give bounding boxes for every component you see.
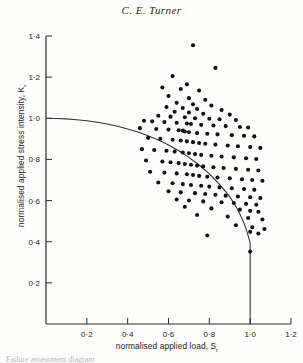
- x-axis-title-subscript: r: [216, 346, 218, 353]
- data-point: [252, 134, 256, 138]
- page-footer-fragment: Failure assessment diagram: [6, 355, 296, 363]
- data-point: [156, 114, 160, 118]
- data-point: [142, 119, 146, 123]
- x-tick-label-2: 0·6: [163, 330, 175, 339]
- data-point: [164, 149, 168, 153]
- data-point: [262, 227, 266, 231]
- x-axis-title: normalised applied load, Sr: [42, 341, 292, 353]
- data-point: [201, 112, 205, 116]
- data-point: [189, 163, 193, 167]
- data-point: [175, 101, 179, 105]
- data-point: [193, 191, 197, 195]
- data-point: [209, 103, 213, 107]
- data-point: [150, 119, 154, 123]
- data-point: [160, 85, 164, 89]
- data-point: [187, 96, 191, 100]
- data-point: [168, 160, 172, 164]
- data-point: [148, 170, 152, 174]
- data-point: [189, 122, 193, 126]
- data-point: [238, 208, 242, 212]
- data-point: [232, 201, 236, 205]
- y-tick-label-3: 0·8: [28, 155, 40, 164]
- data-point: [248, 230, 252, 234]
- data-point: [185, 139, 189, 143]
- data-point: [236, 144, 240, 148]
- data-point: [201, 164, 205, 168]
- data-point: [226, 143, 230, 147]
- data-point: [195, 107, 199, 111]
- data-point: [207, 185, 211, 189]
- data-point: [191, 43, 195, 47]
- data-point: [177, 161, 181, 165]
- data-point: [238, 125, 242, 129]
- data-point: [181, 150, 185, 154]
- data-point: [171, 74, 175, 78]
- data-point: [193, 116, 197, 120]
- data-point: [191, 173, 195, 177]
- data-point: [138, 126, 142, 130]
- data-point: [248, 250, 252, 254]
- data-point: [185, 121, 189, 125]
- data-point: [260, 217, 264, 221]
- data-point: [183, 129, 187, 133]
- data-point: [197, 88, 201, 92]
- data-point: [179, 138, 183, 142]
- y-tick-label-5: 1·2: [28, 73, 40, 82]
- data-point: [220, 155, 224, 159]
- data-point: [246, 216, 250, 220]
- data-point: [217, 185, 221, 189]
- data-point: [179, 190, 183, 194]
- data-point: [203, 142, 207, 146]
- data-point: [187, 199, 191, 203]
- data-point: [191, 140, 195, 144]
- data-point: [256, 231, 260, 235]
- data-point: [195, 164, 199, 168]
- data-point: [213, 143, 217, 147]
- data-point: [256, 210, 260, 214]
- journal-figure-page: C. E. Turner 0·20·40·60·81·01·21·40·20·4…: [0, 0, 303, 363]
- data-point: [199, 153, 203, 157]
- data-point: [240, 177, 244, 181]
- data-point: [183, 205, 187, 209]
- y-tick-label-4: 1·0: [28, 114, 40, 123]
- data-point: [232, 155, 236, 159]
- data-point: [258, 146, 262, 150]
- data-point: [217, 117, 221, 121]
- data-point: [195, 131, 199, 135]
- data-point: [199, 184, 203, 188]
- data-point: [175, 121, 179, 125]
- x-tick-label-1: 0·4: [122, 330, 134, 339]
- data-point: [189, 183, 193, 187]
- data-point: [242, 187, 246, 191]
- data-point: [209, 154, 213, 158]
- data-point: [224, 124, 228, 128]
- data-point: [205, 233, 209, 237]
- data-point: [209, 206, 213, 210]
- data-point: [252, 188, 256, 192]
- data-point: [246, 168, 250, 172]
- data-point: [244, 156, 248, 160]
- data-point: [254, 157, 258, 161]
- data-point: [197, 174, 201, 178]
- data-point: [230, 133, 234, 137]
- data-point: [226, 215, 230, 219]
- data-point: [260, 179, 264, 183]
- y-tick-label-0: 0·2: [28, 279, 40, 288]
- data-point: [173, 110, 177, 114]
- scatter-series: [138, 43, 267, 253]
- data-point: [168, 115, 172, 119]
- data-point: [175, 171, 179, 175]
- x-tick-label-0: 0·2: [81, 330, 93, 339]
- data-point: [171, 181, 175, 185]
- data-point: [166, 94, 170, 98]
- data-point: [220, 108, 224, 112]
- data-point: [213, 66, 217, 70]
- data-point: [236, 194, 240, 198]
- data-point: [213, 193, 217, 197]
- data-point: [234, 167, 238, 171]
- y-axis-title-subscript: r: [21, 85, 28, 87]
- data-point: [187, 151, 191, 155]
- data-point: [162, 120, 166, 124]
- data-point: [228, 176, 232, 180]
- data-point: [224, 194, 228, 198]
